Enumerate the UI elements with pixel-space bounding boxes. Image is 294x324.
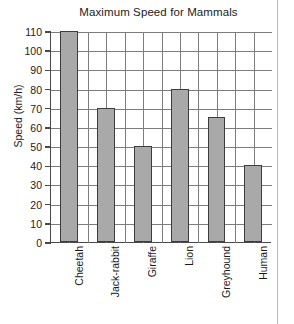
x-axis-tick-label: Cheetah xyxy=(73,246,85,286)
bar-chart-figure: Maximum Speed for Mammals Speed (km/h) 0… xyxy=(0,0,294,324)
page-edge-rule xyxy=(277,0,278,324)
y-axis-tick-mark xyxy=(45,89,51,90)
y-axis-tick-mark xyxy=(45,70,51,71)
bar xyxy=(244,165,262,242)
grid-line-vertical xyxy=(162,32,163,243)
y-axis-tick-label: 90 xyxy=(30,65,42,76)
x-axis-tick-label: Lion xyxy=(183,246,195,266)
y-axis-tick-label: 100 xyxy=(24,46,42,57)
y-axis-tick-mark xyxy=(45,242,51,243)
grid-line-vertical xyxy=(235,32,236,243)
y-axis-tick-labels: 0102030405060708090100110 xyxy=(0,32,42,243)
y-axis-tick-mark xyxy=(45,31,51,32)
y-axis-tick-mark xyxy=(45,166,51,167)
grid-line-vertical xyxy=(198,32,199,243)
y-axis-tick-mark xyxy=(45,204,51,205)
y-axis-tick-label: 60 xyxy=(30,123,42,134)
y-axis-tick-label: 50 xyxy=(30,142,42,153)
y-axis-tick-mark xyxy=(45,108,51,109)
y-axis-tick-mark xyxy=(45,185,51,186)
y-axis-tick-mark xyxy=(45,223,51,224)
bar xyxy=(171,89,189,242)
y-axis-tick-label: 0 xyxy=(36,238,42,249)
x-axis-tick-label: Jack-rabbit xyxy=(109,246,121,297)
bar xyxy=(208,117,226,242)
plot-area xyxy=(50,32,271,243)
y-axis-tick-mark xyxy=(45,50,51,51)
y-axis-tick-label: 70 xyxy=(30,104,42,115)
x-axis-tick-label: Giraffe xyxy=(146,246,158,277)
y-axis-tick-label: 40 xyxy=(30,161,42,172)
y-axis-tick-label: 30 xyxy=(30,180,42,191)
y-axis-tick-mark xyxy=(45,146,51,147)
bar xyxy=(97,108,115,242)
grid-line-vertical xyxy=(125,32,126,243)
y-axis-tick-label: 20 xyxy=(30,200,42,211)
x-axis-tick-label: Greyhound xyxy=(220,246,232,298)
x-axis-tick-label: Human xyxy=(257,246,269,280)
bar xyxy=(134,146,152,242)
y-axis-tick-label: 80 xyxy=(30,85,42,96)
chart-title: Maximum Speed for Mammals xyxy=(46,6,271,18)
bar xyxy=(60,31,78,242)
x-axis-tick-labels: CheetahJack-rabbitGiraffeLionGreyhoundHu… xyxy=(50,246,271,324)
grid-line-vertical xyxy=(88,32,89,243)
y-axis-tick-label: 110 xyxy=(25,27,42,38)
y-axis-tick-mark xyxy=(45,127,51,128)
y-axis-tick-label: 10 xyxy=(30,219,42,230)
